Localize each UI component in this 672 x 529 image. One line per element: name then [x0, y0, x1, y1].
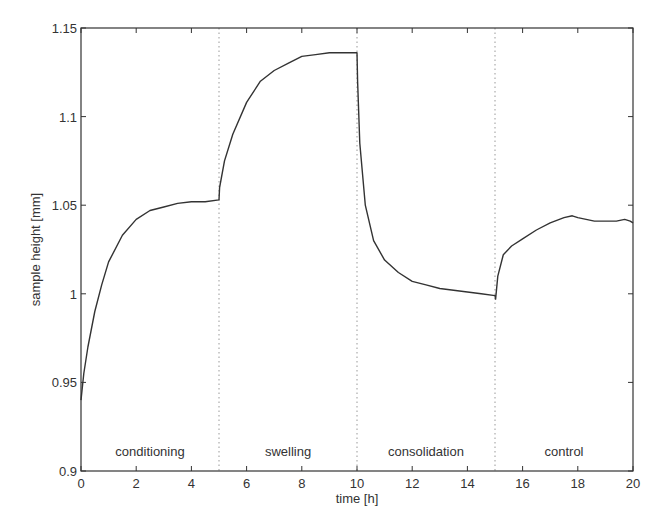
y-tick-label: 0.9 — [59, 464, 77, 479]
x-tick-label: 14 — [460, 476, 474, 491]
x-tick-label: 12 — [405, 476, 419, 491]
x-tick-label: 4 — [188, 476, 195, 491]
x-axis-label: time [h] — [336, 491, 379, 506]
x-tick-label: 16 — [515, 476, 529, 491]
x-tick-label: 2 — [133, 476, 140, 491]
y-tick-label: 1 — [70, 287, 77, 302]
y-tick-label: 1.05 — [52, 198, 77, 213]
x-tick-label: 20 — [626, 476, 640, 491]
phase-label: conditioning — [115, 444, 184, 459]
y-tick-label: 0.95 — [52, 375, 77, 390]
y-axis-label: sample height [mm] — [28, 193, 43, 306]
chart-canvas: 024681012141618200.90.9511.051.11.15cond… — [0, 0, 672, 529]
x-tick-label: 0 — [77, 476, 84, 491]
y-tick-label: 1.15 — [52, 21, 77, 36]
phase-label: control — [544, 444, 583, 459]
x-tick-label: 18 — [571, 476, 585, 491]
x-tick-label: 6 — [243, 476, 250, 491]
x-tick-label: 10 — [350, 476, 364, 491]
y-tick-label: 1.1 — [59, 110, 77, 125]
phase-label: swelling — [265, 444, 311, 459]
x-tick-label: 8 — [298, 476, 305, 491]
plot-area: 024681012141618200.90.9511.051.11.15cond… — [28, 21, 640, 506]
phase-label: consolidation — [388, 444, 464, 459]
